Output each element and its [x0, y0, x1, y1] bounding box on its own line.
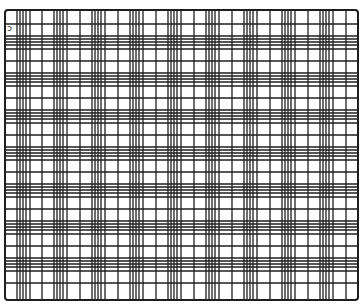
vertical-lines — [17, 10, 346, 300]
grid-lines-svg — [0, 0, 363, 305]
grid-figure: ↄ — [0, 0, 363, 305]
